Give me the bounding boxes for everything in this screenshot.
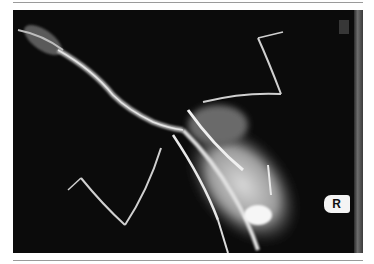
bird-xray-illustration [13, 10, 363, 253]
film-edge [354, 10, 363, 253]
top-rule [13, 2, 363, 3]
radiograph-image: R [13, 10, 363, 253]
side-marker-label: R [324, 195, 350, 213]
bottom-rule [13, 260, 363, 261]
